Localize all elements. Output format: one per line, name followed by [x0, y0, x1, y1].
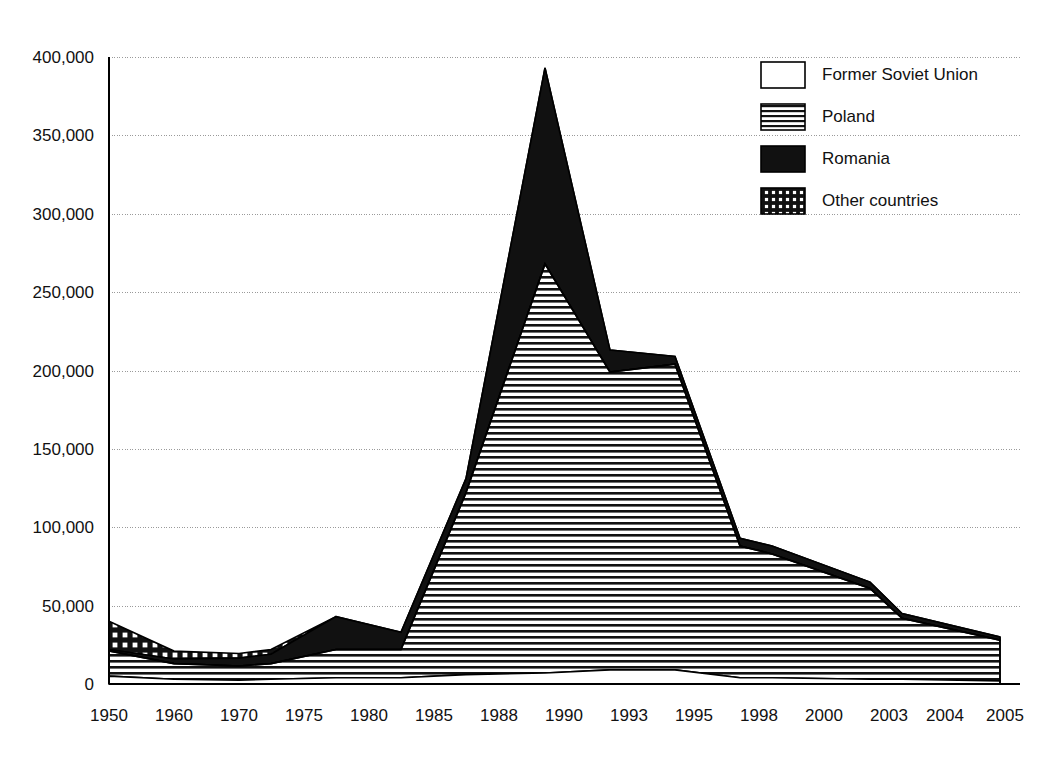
- legend-item-poland[interactable]: Poland: [761, 104, 875, 130]
- x-tick-2003: 2003: [870, 706, 908, 725]
- x-tick-1980: 1980: [350, 706, 388, 725]
- area-poland: [109, 264, 1000, 681]
- x-axis-tick-labels: 1950 1960 1970 1975 1980 1985 1988 1990 …: [90, 706, 1024, 725]
- x-tick-1995: 1995: [675, 706, 713, 725]
- x-tick-1985: 1985: [415, 706, 453, 725]
- legend-label-romania: Romania: [822, 149, 891, 168]
- x-tick-1975: 1975: [285, 706, 323, 725]
- legend-label-other-countries: Other countries: [822, 191, 938, 210]
- legend-swatch-solid-black-box: [761, 146, 805, 172]
- y-tick-400000: 400,000: [33, 48, 94, 67]
- legend-swatch-horizontal-lines-box: [761, 104, 805, 130]
- y-tick-350000: 350,000: [33, 126, 94, 145]
- x-tick-1993: 1993: [610, 706, 648, 725]
- x-tick-1960: 1960: [155, 706, 193, 725]
- y-tick-200000: 200,000: [33, 362, 94, 381]
- x-tick-1988: 1988: [480, 706, 518, 725]
- legend-label-former-soviet-union: Former Soviet Union: [822, 65, 978, 84]
- legend-item-other-countries[interactable]: Other countries: [761, 188, 938, 214]
- y-tick-50000: 50,000: [42, 597, 94, 616]
- x-tick-1950: 1950: [90, 706, 128, 725]
- legend-item-former-soviet-union[interactable]: Former Soviet Union: [761, 62, 978, 88]
- y-axis-tick-labels: 400,000 350,000 300,000 250,000 200,000 …: [33, 48, 94, 694]
- x-tick-2005: 2005: [986, 706, 1024, 725]
- y-tick-300000: 300,000: [33, 205, 94, 224]
- stacked-area-chart: 400,000 350,000 300,000 250,000 200,000 …: [0, 0, 1038, 759]
- chart-legend: Former Soviet Union Poland Romania Other…: [761, 62, 978, 214]
- legend-swatch-crosshatch-box: [761, 188, 805, 214]
- y-tick-0: 0: [85, 675, 94, 694]
- chart-canvas: 400,000 350,000 300,000 250,000 200,000 …: [0, 0, 1038, 759]
- y-tick-150000: 150,000: [33, 440, 94, 459]
- x-tick-1970: 1970: [220, 706, 258, 725]
- y-tick-100000: 100,000: [33, 518, 94, 537]
- legend-label-poland: Poland: [822, 107, 875, 126]
- y-tick-250000: 250,000: [33, 283, 94, 302]
- legend-item-romania[interactable]: Romania: [761, 146, 891, 172]
- x-tick-2004: 2004: [926, 706, 964, 725]
- legend-swatch-white-box: [761, 62, 805, 88]
- x-tick-1990: 1990: [545, 706, 583, 725]
- x-tick-1998: 1998: [740, 706, 778, 725]
- x-tick-2000: 2000: [805, 706, 843, 725]
